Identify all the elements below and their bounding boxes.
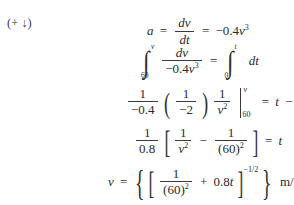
- eq2-int1-lower-limit: 60: [141, 72, 149, 80]
- eq5-brace-open: {: [135, 165, 145, 201]
- evaluation-rule-line: [240, 88, 241, 118]
- eq5-t1-denominator: (60)2: [160, 182, 192, 197]
- eq2-integrand-dt: dt: [249, 53, 259, 68]
- equation-evaluated-antiderivative: 1 −0.4 ( 1 −2 ) 1 v2 v 60 = t − 0: [126, 87, 294, 119]
- equation-velocity-solution: v = { [ 1 (60)2 + 0.8t ]−1/2 } m/s: [108, 165, 294, 201]
- eq2-den-exponent: 3: [195, 61, 199, 70]
- eq1-frac-numerator: dv: [175, 16, 193, 32]
- eq3-equals: =: [259, 94, 272, 109]
- eq4-f1-numerator: 1: [136, 126, 158, 142]
- eq5-plus: +: [197, 174, 210, 189]
- eq5-bracket-open: [: [149, 167, 155, 199]
- eq5-brace-close: }: [262, 165, 272, 201]
- eq4-f1-denominator: 0.8: [136, 141, 158, 156]
- eq3-eval-upper-limit: v: [244, 86, 248, 94]
- eq2-equals: =: [207, 53, 220, 68]
- eq4-t2-den-exponent: 2: [240, 141, 244, 150]
- eq4-term-2: 1 (60)2: [215, 126, 247, 156]
- eq4-equals: =: [262, 133, 275, 148]
- eq5-t2-variable: t: [230, 174, 234, 189]
- eq3-fraction-2: 1 −2: [176, 87, 196, 117]
- eq3-f3-denominator: v2: [214, 102, 230, 117]
- eq2-int1-upper-limit: v: [151, 43, 154, 51]
- eq4-t2-denominator: (60)2: [215, 141, 247, 156]
- eq4-rhs: t: [279, 133, 283, 148]
- equation-simplified-bracket-form: 1 0.8 [ 1 v2 − 1 (60)2 ] = t: [134, 126, 282, 158]
- eq4-term-1: 1 v2: [175, 126, 191, 156]
- eq3-evaluation-bar: v 60: [239, 87, 255, 119]
- eq2-den-coefficient: −0.4: [165, 61, 189, 76]
- eq5-t1-numerator: 1: [160, 167, 192, 183]
- eq4-bracket-close: ]: [252, 126, 258, 158]
- cropped-line-artifact: [0, 0, 294, 5]
- eq5-t1-den-exponent: 2: [185, 182, 189, 191]
- eq2-integrand-fraction: dv −0.4v3: [162, 46, 201, 76]
- direction-convention-tag: (+ ↓): [7, 16, 32, 31]
- eq4-leading-fraction: 1 0.8: [136, 126, 158, 156]
- eq3-f2-denominator: −2: [176, 102, 196, 117]
- eq4-t1-den-exponent: 2: [184, 141, 188, 150]
- eq4-t1-numerator: 1: [175, 126, 191, 142]
- eq1-exponent: 3: [245, 23, 249, 32]
- eq3-f3-den-exponent: 2: [223, 102, 227, 111]
- eq5-units: m/s: [280, 174, 294, 189]
- eq3-rhs-variable: t: [275, 94, 279, 109]
- eq3-eval-lower-limit: 60: [243, 111, 251, 119]
- eq1-lhs: a: [147, 23, 154, 38]
- eq2-frac-numerator: dv: [162, 46, 201, 62]
- eq5-t2-coefficient: 0.8: [214, 174, 230, 189]
- eq4-t2-numerator: 1: [215, 126, 247, 142]
- eq5-t1-den-base: (60): [163, 182, 185, 197]
- eq2-frac-denominator: −0.4v3: [162, 61, 201, 76]
- eq3-f3-numerator: 1: [214, 87, 230, 103]
- eq5-term-1: 1 (60)2: [160, 167, 192, 197]
- eq5-bracket-close: ]: [237, 167, 243, 199]
- eq2-int2-upper-limit: t: [235, 43, 237, 51]
- eq3-paren-close: ): [202, 88, 208, 118]
- eq4-t1-denominator: v2: [175, 141, 191, 156]
- eq3-f1-numerator: 1: [128, 87, 158, 103]
- eq3-fraction-3: 1 v2: [214, 87, 230, 117]
- eq1-equals-1: =: [157, 23, 170, 38]
- eq3-fraction-1: 1 −0.4: [128, 87, 158, 117]
- eq3-f1-denominator: −0.4: [128, 102, 158, 117]
- eq1-coefficient: −0.4: [215, 23, 239, 38]
- integral-sign-left: ∫ v 60: [140, 45, 156, 79]
- integral-sign-right: ∫ t 0: [224, 45, 240, 79]
- eq4-t2-den-base: (60): [218, 141, 240, 156]
- eq5-outer-exponent: −1/2: [243, 166, 258, 174]
- eq3-paren-open: (: [164, 88, 170, 118]
- eq4-bracket-open: [: [164, 126, 170, 158]
- paren-close: ): [28, 16, 32, 30]
- eq3-rhs-minus: −: [282, 94, 294, 109]
- eq5-equals: =: [117, 174, 130, 189]
- eq3-f2-numerator: 1: [176, 87, 196, 103]
- eq1-equals-2: =: [199, 23, 212, 38]
- equation-separated-integral: ∫ v 60 dv −0.4v3 = ∫ t 0 dt: [140, 45, 259, 79]
- eq5-lhs: v: [108, 174, 114, 189]
- eq4-minus: −: [196, 133, 209, 148]
- math-derivation-page: (+ ↓) a = dv dt = −0.4v3 ∫ v 60 dv −0.4v…: [0, 0, 294, 205]
- eq1-derivative-fraction: dv dt: [175, 16, 193, 46]
- plus-sign: +: [11, 16, 18, 30]
- eq2-int2-lower-limit: 0: [225, 72, 229, 80]
